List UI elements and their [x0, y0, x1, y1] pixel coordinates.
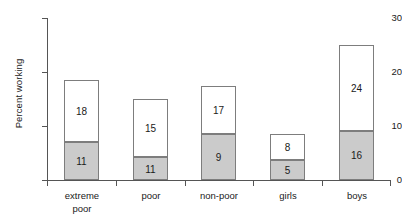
- bar-value-label-upper: 8: [271, 143, 304, 153]
- y-tick-30: [42, 18, 47, 19]
- bar-girls: 8 5: [270, 134, 305, 180]
- x-axis-label-boys: boys: [317, 190, 397, 203]
- x-axis-label-girls: girls: [248, 190, 328, 203]
- x-tick-4: [322, 181, 323, 186]
- bar-value-label-lower: 11: [65, 157, 98, 167]
- x-tick-1: [116, 181, 117, 186]
- bar-poor: 15 11: [133, 99, 168, 180]
- bar-segment-upper: 15: [133, 99, 168, 157]
- bar-segment-upper: 24: [339, 45, 374, 131]
- bar-extreme-poor: 18 11: [64, 80, 99, 180]
- bar-segment-upper: 8: [270, 134, 305, 160]
- y-tick-20: [42, 72, 47, 73]
- x-tick-5: [390, 181, 391, 186]
- bar-value-label-lower: 11: [134, 165, 167, 175]
- x-axis-line: [47, 180, 391, 181]
- x-tick-2: [185, 181, 186, 186]
- bar-value-label-lower: 5: [271, 166, 304, 176]
- x-axis-label-non-poor: non-poor: [179, 190, 259, 203]
- x-tick-0: [47, 181, 48, 186]
- y-tick-label-30: 30: [362, 13, 402, 23]
- x-tick-3: [253, 181, 254, 186]
- bar-value-label-upper: 15: [134, 124, 167, 134]
- bar-non-poor: 17 9: [201, 86, 236, 180]
- y-axis-title: Percent working: [13, 14, 24, 174]
- bar-chart: Percent working 30 20 10 0 18 11 extreme…: [0, 0, 402, 224]
- y-axis-line: [47, 18, 48, 181]
- bar-segment-lower: 11: [64, 142, 99, 180]
- bar-segment-upper: 18: [64, 80, 99, 142]
- bar-segment-lower: 5: [270, 160, 305, 180]
- bar-value-label-lower: 9: [202, 153, 235, 163]
- bar-value-label-upper: 18: [65, 107, 98, 117]
- bar-value-label-lower: 16: [340, 151, 373, 161]
- bar-segment-lower: 16: [339, 131, 374, 180]
- bar-value-label-upper: 17: [202, 106, 235, 116]
- bar-segment-upper: 17: [201, 86, 236, 134]
- bar-boys: 24 16: [339, 45, 374, 180]
- y-tick-10: [42, 126, 47, 127]
- bar-value-label-upper: 24: [340, 84, 373, 94]
- bar-segment-lower: 11: [133, 157, 168, 180]
- x-axis-label-extreme-poor: extreme poor: [42, 190, 122, 215]
- bar-segment-lower: 9: [201, 134, 236, 180]
